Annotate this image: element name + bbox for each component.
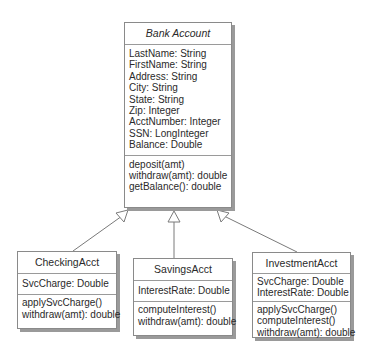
- attributes-section: LastName: String FirstName: String Addre…: [125, 45, 231, 156]
- methods-section: applySvcCharge() withdraw(amt): double: [18, 295, 116, 320]
- attribute: AcctNumber: Integer: [129, 116, 227, 127]
- inheritance-arrow-icon: [217, 210, 229, 222]
- attributes-section: SvcCharge: Double: [18, 274, 116, 295]
- attribute: SvcCharge: Double: [22, 278, 112, 289]
- method: computeInterest(): [138, 304, 228, 315]
- class-investment-acct: InvestmentAcct SvcCharge: Double Interes…: [252, 252, 351, 338]
- attribute: LastName: String: [129, 48, 227, 59]
- inheritance-arrow-icon: [168, 211, 180, 222]
- methods-section: computeInterest() withdraw(amt): double: [134, 302, 232, 327]
- class-savings-acct: SavingsAcct InterestRate: Double compute…: [133, 258, 233, 336]
- attribute: InterestRate: Double: [257, 287, 346, 298]
- attributes-section: SvcCharge: Double InterestRate: Double: [253, 274, 350, 302]
- inheritance-arrow-icon: [116, 210, 128, 222]
- method: applySvcCharge(): [257, 304, 346, 315]
- method: getBalance(): double: [129, 181, 227, 192]
- method: withdraw(amt): double: [138, 316, 228, 327]
- attribute: City: String: [129, 82, 227, 93]
- methods-section: applySvcCharge() computeInterest() withd…: [253, 302, 350, 338]
- attribute: Zip: Integer: [129, 105, 227, 116]
- generalization-checking: [73, 210, 128, 251]
- class-name: InvestmentAcct: [253, 253, 350, 274]
- attribute: State: String: [129, 94, 227, 105]
- method: withdraw(amt): double: [257, 327, 346, 338]
- attributes-section: InterestRate: Double: [134, 281, 232, 302]
- generalization-investment: [217, 210, 297, 252]
- class-checking-acct: CheckingAcct SvcCharge: Double applySvcC…: [17, 251, 117, 329]
- generalization-savings: [168, 211, 180, 258]
- attribute: SSN: LongInteger: [129, 128, 227, 139]
- attribute: Balance: Double: [129, 139, 227, 150]
- attribute: SvcCharge: Double: [257, 276, 346, 287]
- attribute: FirstName: String: [129, 59, 227, 70]
- method: withdraw(amt): double: [22, 309, 112, 320]
- method: deposit(amt): [129, 159, 227, 170]
- class-name: Bank Account: [125, 23, 231, 45]
- attribute: InterestRate: Double: [138, 285, 228, 296]
- attribute: Address: String: [129, 71, 227, 82]
- method: computeInterest(): [257, 315, 346, 326]
- method: applySvcCharge(): [22, 297, 112, 308]
- class-name: SavingsAcct: [134, 259, 232, 281]
- class-bank-account: Bank Account LastName: String FirstName:…: [124, 22, 232, 208]
- class-name: CheckingAcct: [18, 252, 116, 274]
- method: withdraw(amt): double: [129, 170, 227, 181]
- methods-section: deposit(amt) withdraw(amt): double getBa…: [125, 156, 231, 193]
